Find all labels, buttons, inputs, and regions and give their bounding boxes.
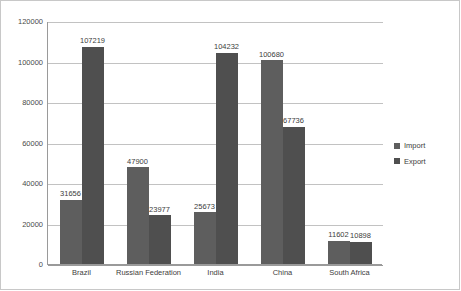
y-axis-tick-label: 0 <box>39 261 43 269</box>
bar-import[interactable]: 25673 <box>194 212 216 264</box>
bar-import[interactable]: 47900 <box>127 167 149 264</box>
legend-label: Import <box>404 142 425 150</box>
bar-import[interactable]: 11602 <box>328 241 350 264</box>
bar-export[interactable]: 107219 <box>82 47 104 264</box>
bar-groups: 31656107219Brazil4790023977Russian Feder… <box>48 21 383 264</box>
bar-group: 25673104232India <box>182 21 249 264</box>
bars: 4790023977 <box>127 21 171 264</box>
bar-import[interactable]: 100680 <box>261 60 283 264</box>
bar-value-label: 67736 <box>283 117 304 125</box>
legend-item[interactable]: Export <box>394 158 426 166</box>
bar-group: 31656107219Brazil <box>48 21 115 264</box>
y-axis-tick-label: 60000 <box>22 140 43 148</box>
gridline <box>48 265 383 266</box>
bar-value-label: 31656 <box>60 190 81 198</box>
y-axis-tick-label: 120000 <box>18 18 43 26</box>
bar-import[interactable]: 31656 <box>60 200 82 264</box>
bar-export[interactable]: 10898 <box>350 242 372 264</box>
y-axis-tick-label: 100000 <box>18 59 43 67</box>
bar-group: 1160210898South Africa <box>316 21 383 264</box>
chart-legend: ImportExport <box>394 142 426 173</box>
x-axis-category-label: India <box>207 269 223 277</box>
bar-group: 10068067736China <box>249 21 316 264</box>
legend-swatch-icon <box>394 158 400 164</box>
legend-swatch-icon <box>394 143 400 149</box>
legend-item[interactable]: Import <box>394 142 426 150</box>
x-axis-category-label: Brazil <box>72 269 91 277</box>
bar-value-label: 23977 <box>149 206 170 214</box>
bar-export[interactable]: 104232 <box>216 53 238 264</box>
bars: 1160210898 <box>328 21 372 264</box>
x-axis-category-label: Russian Federation <box>116 269 181 277</box>
bar-value-label: 104232 <box>214 43 239 51</box>
bar-export[interactable]: 67736 <box>283 127 305 264</box>
y-axis-tick-label: 40000 <box>22 180 43 188</box>
legend-label: Export <box>404 158 426 166</box>
bar-value-label: 100680 <box>259 51 284 59</box>
bar-value-label: 107219 <box>80 37 105 45</box>
x-axis-category-label: South Africa <box>329 269 369 277</box>
y-axis-tick-label: 80000 <box>22 99 43 107</box>
bar-export[interactable]: 23977 <box>149 215 171 264</box>
chart-frame: 020000400006000080000100000120000 316561… <box>0 0 460 290</box>
bar-value-label: 10898 <box>350 232 371 240</box>
bars: 25673104232 <box>194 21 238 264</box>
y-axis-tick-label: 20000 <box>22 221 43 229</box>
bar-value-label: 47900 <box>127 158 148 166</box>
bar-value-label: 11602 <box>328 231 348 239</box>
x-axis-category-label: China <box>273 269 293 277</box>
bars: 10068067736 <box>261 21 305 264</box>
plot-area: 020000400006000080000100000120000 316561… <box>47 22 382 265</box>
bar-group: 4790023977Russian Federation <box>115 21 182 264</box>
bars: 31656107219 <box>60 21 104 264</box>
bar-value-label: 25673 <box>194 203 215 211</box>
